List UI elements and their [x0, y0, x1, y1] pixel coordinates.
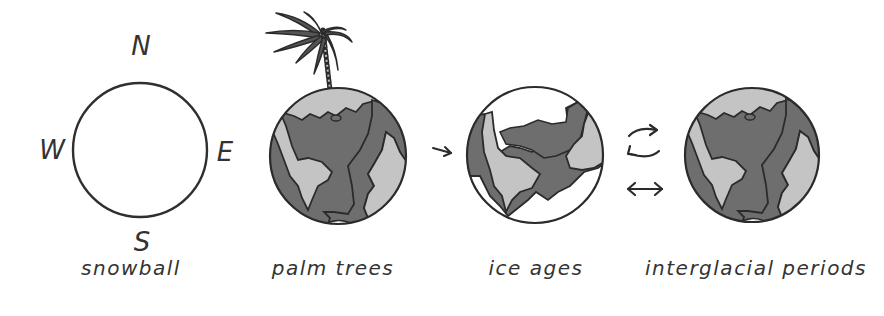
- ice-ages-globe: [460, 80, 610, 230]
- snowball-globe: [73, 83, 207, 217]
- right-arrow-icon: [433, 147, 451, 156]
- cycle-arrows-icon: [628, 125, 659, 156]
- label-interglacial-periods: interglacial periods: [645, 256, 867, 280]
- interglacial-globe: [672, 75, 832, 240]
- palm-tree-icon: [266, 12, 352, 90]
- left-right-arrow-icon: [628, 183, 662, 195]
- compass-north: N: [131, 31, 150, 61]
- label-palm-trees: palm trees: [272, 256, 394, 280]
- palm-trees-globe: [258, 76, 418, 240]
- label-ice-ages: ice ages: [489, 256, 584, 280]
- compass-south: S: [134, 227, 151, 257]
- compass-east: E: [217, 137, 233, 167]
- label-snowball: snowball: [81, 256, 181, 280]
- compass-west: W: [39, 135, 65, 165]
